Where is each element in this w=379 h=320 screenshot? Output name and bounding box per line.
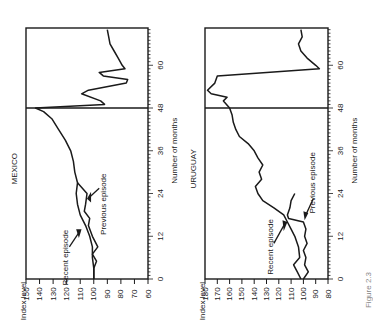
- mexico-title: MEXICO: [10, 153, 19, 185]
- uruguay-month-tick-label: 36: [336, 146, 345, 155]
- uruguay-value-tick-label: 80: [324, 289, 333, 298]
- mexico-month-tick-label: 36: [156, 146, 165, 155]
- mexico-value-tick-label: 70: [130, 289, 139, 298]
- figure: 01224364860Number of months1501401301201…: [0, 0, 379, 320]
- uruguay-value-tick-label: 110: [287, 287, 296, 300]
- mexico-value-tick-label: 140: [35, 287, 44, 301]
- uruguay-month-tick-label: 60: [336, 60, 345, 69]
- uruguay-arrowhead-recent: [282, 220, 287, 231]
- uruguay-series-previous-episode: [287, 194, 308, 280]
- uruguay-value-tick-label: 170: [213, 287, 222, 301]
- mexico-value-tick-label: 90: [103, 289, 112, 298]
- mexico-month-tick-label: 60: [156, 60, 165, 69]
- uruguay-value-tick-label: 120: [274, 287, 283, 301]
- chart-canvas: 01224364860Number of months1501401301201…: [0, 0, 379, 320]
- uruguay-value-tick-label: 150: [237, 287, 246, 301]
- uruguay-xaxis-label: Number of months: [350, 118, 359, 184]
- uruguay-value-tick-label: 160: [225, 287, 234, 301]
- mexico-value-tick-label: 120: [62, 287, 71, 301]
- mexico-value-tick-label: 80: [116, 289, 125, 298]
- mexico-month-tick-label: 48: [156, 103, 165, 112]
- mexico-yaxis-label: Index level: [19, 282, 28, 320]
- mexico-plot-frame: [26, 28, 148, 279]
- uruguay-month-tick-label: 12: [336, 231, 345, 240]
- uruguay-yaxis-label: Index level: [198, 282, 207, 320]
- mexico-month-tick-label: 12: [156, 231, 165, 240]
- mexico-month-tick-label: 0: [156, 276, 165, 281]
- uruguay-arrow-recent: [274, 226, 284, 244]
- uruguay-month-tick-label: 48: [336, 103, 345, 112]
- mexico-value-tick-label: 110: [76, 287, 85, 300]
- mexico-arrow-previous: [90, 188, 99, 197]
- uruguay-series-recent-episode: [208, 30, 320, 279]
- uruguay-annotation-recent: Recent episode: [266, 219, 275, 275]
- mexico-value-tick-label: 60: [144, 289, 153, 298]
- uruguay-title: URUGUAY: [189, 148, 198, 188]
- uruguay-annotation-previous: Previous episode: [308, 152, 317, 214]
- mexico-annotation-recent: Recent episode: [61, 229, 70, 285]
- mexico-month-tick-label: 24: [156, 189, 165, 198]
- uruguay-month-tick-label: 0: [336, 276, 345, 281]
- uruguay-month-tick-label: 24: [336, 189, 345, 198]
- mexico-arrow-recent: [69, 233, 78, 247]
- uruguay-value-tick-label: 130: [262, 287, 271, 301]
- uruguay-value-tick-label: 90: [311, 289, 320, 298]
- uruguay-value-tick-label: 100: [299, 287, 308, 301]
- mexico-annotation-previous: Previous episode: [99, 173, 108, 235]
- mexico-value-tick-label: 100: [89, 287, 98, 301]
- figure-caption: Figure 2.3: [364, 271, 373, 308]
- mexico-xaxis-label: Number of months: [170, 118, 179, 184]
- uruguay-value-tick-label: 140: [250, 287, 259, 301]
- mexico-series-recent-episode: [36, 30, 128, 279]
- mexico-value-tick-label: 130: [49, 287, 58, 301]
